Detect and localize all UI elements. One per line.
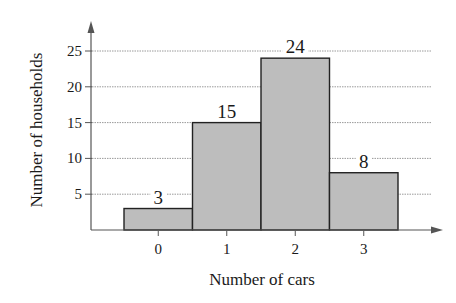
value-label: 24 [286,36,306,57]
y-tick-label: 10 [67,150,82,166]
histogram-chart: 510152025 0123 315248 Number of cars Num… [0,0,456,303]
x-tick-label: 1 [223,241,231,257]
x-tick-labels: 0123 [155,231,368,257]
y-tick-label: 25 [67,43,82,59]
x-axis-arrow-icon [431,227,443,234]
bar-2 [261,58,330,230]
bar-0 [124,209,193,230]
value-label: 3 [154,187,164,208]
value-label: 8 [359,151,369,172]
y-tick-label: 15 [67,115,82,131]
y-axis-title: Number of households [27,53,46,208]
y-tick-label: 5 [75,186,83,202]
x-axis-title: Number of cars [209,270,315,289]
bar-3 [330,173,399,230]
y-tick-labels: 510152025 [67,43,82,202]
value-label: 15 [217,101,236,122]
x-tick-label: 2 [292,241,300,257]
x-tick-label: 3 [360,241,368,257]
x-tick-label: 0 [155,241,163,257]
y-axis-arrow-icon [88,21,95,33]
bar-1 [193,123,262,230]
y-tick-label: 20 [67,79,82,95]
